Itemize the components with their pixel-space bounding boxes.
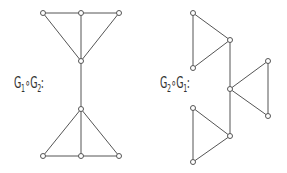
graph-node <box>79 107 84 112</box>
graph-node <box>228 38 233 43</box>
graph-edge <box>43 13 81 61</box>
graph-node <box>191 106 196 111</box>
graph-edge <box>230 61 268 89</box>
edges <box>43 13 268 162</box>
nodes <box>41 11 271 165</box>
graph-edge <box>81 13 119 61</box>
graph-node <box>228 87 233 92</box>
graph-node <box>41 11 46 16</box>
graph-node <box>79 11 84 16</box>
graph-node <box>191 160 196 165</box>
graph-node <box>191 11 196 16</box>
graph-edge <box>193 13 230 40</box>
graph-node <box>266 59 271 64</box>
graph-node <box>228 134 233 139</box>
graph-edge <box>43 109 81 156</box>
graph-node <box>191 66 196 71</box>
graph-edge <box>193 108 230 136</box>
label-g1-compose-g2: G1∘G2: <box>14 74 44 94</box>
label-g2-compose-g1: G2∘G1: <box>160 74 190 94</box>
graph-node <box>117 11 122 16</box>
graph-edge <box>193 40 230 68</box>
graph-edge <box>193 136 230 162</box>
graph-edge <box>230 89 268 116</box>
graph-node <box>117 154 122 159</box>
graph-node <box>79 59 84 64</box>
graph-node <box>79 154 84 159</box>
graph-node <box>41 154 46 159</box>
graph-edge <box>81 109 119 156</box>
graph-node <box>266 114 271 119</box>
